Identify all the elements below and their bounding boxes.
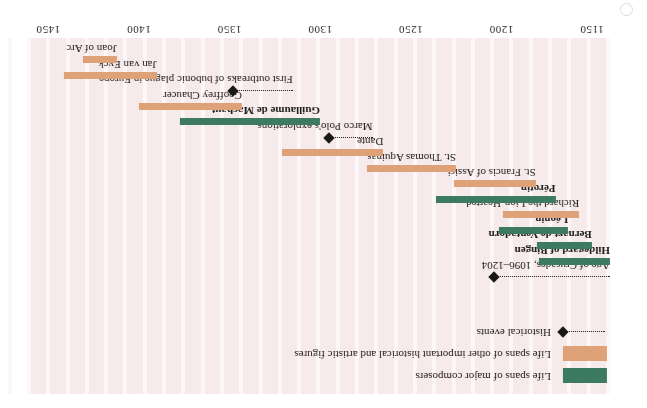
x-axis-tick-label: 1350 bbox=[217, 24, 241, 36]
lifespan-bar bbox=[367, 165, 456, 172]
legend-swatch bbox=[563, 346, 607, 361]
grid-stripe bbox=[143, 38, 147, 394]
x-axis-tick-label: 1250 bbox=[398, 24, 422, 36]
legend-label: Life spans of major composers bbox=[415, 371, 551, 383]
legend-item: Life spans of major composers bbox=[187, 364, 607, 386]
grid-stripe bbox=[85, 38, 89, 394]
page-corner-mark bbox=[620, 3, 633, 16]
legend-diamond-icon bbox=[557, 326, 568, 337]
grid-stripe bbox=[124, 38, 128, 394]
lifespan-bar bbox=[83, 56, 117, 63]
event-line bbox=[233, 90, 293, 91]
legend-dotted-line bbox=[565, 331, 605, 332]
row-label: Dante bbox=[357, 136, 383, 148]
row-label: Joan of Arc bbox=[66, 43, 117, 55]
event-line bbox=[329, 137, 373, 138]
event-marker-diamond bbox=[323, 132, 334, 143]
chart-legend: Life spans of major composersLife spans … bbox=[187, 320, 607, 386]
legend-label: Historical events bbox=[477, 327, 551, 339]
lifespan-bar bbox=[64, 72, 156, 79]
lifespan-bar bbox=[503, 211, 579, 218]
grid-stripe bbox=[27, 38, 31, 394]
row-label: St. Francis of Assisi bbox=[448, 167, 536, 179]
x-axis-tick-label: 1450 bbox=[36, 24, 60, 36]
lifespan-bar bbox=[538, 242, 592, 249]
x-axis-tick-label: 1150 bbox=[580, 24, 604, 36]
legend-swatch bbox=[563, 368, 607, 383]
x-axis: 1150120012501300135014001450 bbox=[30, 12, 610, 38]
legend-item: Historical events bbox=[187, 320, 607, 342]
lifespan-bar bbox=[436, 196, 556, 203]
event-line bbox=[494, 276, 610, 277]
lifespan-bar bbox=[180, 118, 320, 125]
x-axis-tick-label: 1400 bbox=[127, 24, 151, 36]
lifespan-bar bbox=[454, 180, 536, 187]
timeline-figure: Age of Crusades, 1096–1204Hildegard of B… bbox=[0, 0, 647, 408]
legend-item: Life spans of other important historical… bbox=[187, 342, 607, 364]
lifespan-bar bbox=[139, 103, 242, 110]
x-axis-tick-label: 1300 bbox=[308, 24, 332, 36]
lifespan-bar bbox=[539, 258, 610, 265]
grid-stripe bbox=[104, 38, 108, 394]
x-axis-tick-label: 1200 bbox=[489, 24, 513, 36]
lifespan-bar bbox=[499, 227, 568, 234]
lifespan-bar bbox=[282, 149, 384, 156]
grid-stripe bbox=[8, 38, 12, 394]
grid-stripe bbox=[66, 38, 70, 394]
grid-stripe bbox=[46, 38, 50, 394]
legend-label: Life spans of other important historical… bbox=[294, 349, 551, 361]
